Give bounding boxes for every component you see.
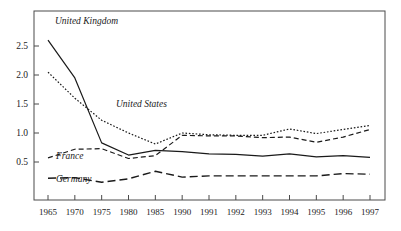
x-tick-label: 1990 — [173, 207, 192, 217]
x-tick-label: 1965 — [39, 207, 58, 217]
series-label-united-kingdom: United Kingdom — [55, 16, 118, 26]
x-tick-label: 1992 — [227, 207, 245, 217]
chart-container: 0.51.01.52.02.5 196519701975198019851990… — [0, 0, 401, 231]
series-label-germany: Germany — [56, 174, 92, 184]
x-tick-label: 1993 — [254, 207, 273, 217]
x-tick-label: 1995 — [307, 207, 326, 217]
x-tick-label: 1985 — [146, 207, 165, 217]
x-tick-label: 1994 — [281, 207, 300, 217]
x-tick-label: 1980 — [120, 207, 139, 217]
series-label-united-states: United States — [116, 99, 167, 109]
x-tick-label: 1975 — [93, 207, 112, 217]
series-label-france: France — [55, 151, 83, 161]
y-tick-label: 2.5 — [16, 41, 28, 51]
x-tick-label: 1997 — [361, 207, 380, 217]
y-tick-label: 1.0 — [16, 128, 28, 138]
y-tick-label: 0.5 — [16, 157, 28, 167]
x-tick-label: 1991 — [200, 207, 218, 217]
y-tick-label: 2.0 — [16, 70, 28, 80]
x-tick-label: 1970 — [66, 207, 85, 217]
y-tick-label: 1.5 — [16, 99, 28, 109]
line-chart: 0.51.01.52.02.5 196519701975198019851990… — [0, 0, 401, 231]
chart-background — [0, 0, 401, 231]
x-tick-label: 1996 — [334, 207, 353, 217]
